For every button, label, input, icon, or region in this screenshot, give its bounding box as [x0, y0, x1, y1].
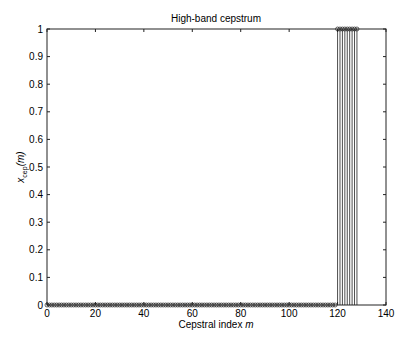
x-tick-label: 120: [329, 308, 346, 319]
y-tick-label: 0.3: [29, 217, 43, 228]
y-tick-label: 0.9: [29, 51, 43, 62]
y-tick-label: 0.1: [29, 272, 43, 283]
x-tick-label: 40: [138, 308, 150, 319]
x-tick-label: 100: [281, 308, 298, 319]
chart-title: High-band cepstrum: [171, 13, 261, 24]
x-tick-label: 80: [235, 308, 247, 319]
stem-chart: High-band cepstrum 020406080100120140 00…: [0, 0, 413, 343]
y-tick-label: 0.7: [29, 106, 43, 117]
y-tick-label: 0.2: [29, 244, 43, 255]
x-tick-label: 20: [90, 308, 102, 319]
y-tick-label: 1: [37, 24, 43, 35]
y-tick-label: 0.6: [29, 134, 43, 145]
x-tick-label: 140: [378, 308, 395, 319]
axes-box: [47, 29, 386, 305]
y-tick-label: 0.8: [29, 79, 43, 90]
y-tick-label: 0: [37, 300, 43, 311]
plot-area: [45, 27, 386, 307]
x-axis-label: Cepstral index m: [178, 319, 253, 330]
x-tick-label: 0: [44, 308, 50, 319]
y-tick-label: 0.5: [29, 162, 43, 173]
y-axis-label: xcep(m): [15, 151, 29, 183]
y-tick-label: 0.4: [29, 189, 43, 200]
x-tick-label: 60: [187, 308, 199, 319]
